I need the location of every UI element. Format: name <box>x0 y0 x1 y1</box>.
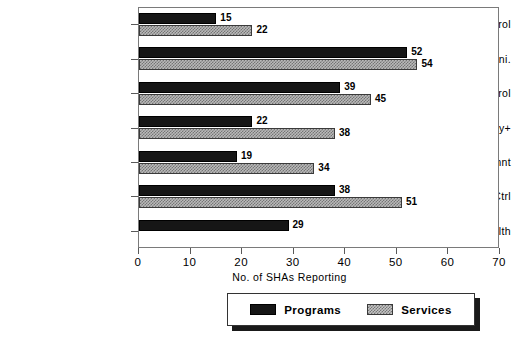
x-axis-tick-label: 50 <box>376 256 416 269</box>
bar-services <box>139 25 252 36</box>
bar-services <box>139 197 402 208</box>
bar-programs <box>139 185 335 196</box>
legend-item-services: Services <box>367 304 452 316</box>
bar-value-label: 22 <box>256 115 267 126</box>
y-axis-tick <box>131 231 138 232</box>
x-axis-tick <box>138 248 139 254</box>
bar-group <box>139 8 498 42</box>
bar-programs <box>139 220 289 231</box>
legend-item-programs: Programs <box>250 304 341 316</box>
solid-black-swatch-icon <box>250 304 276 315</box>
y-axis-tick <box>131 24 138 25</box>
x-axis-tick-label: 40 <box>324 256 364 269</box>
bar-programs <box>139 47 407 58</box>
bar-group <box>139 215 498 249</box>
bar-value-label: 52 <box>411 46 422 57</box>
x-axis-tick-label: 60 <box>427 256 467 269</box>
x-axis-tick <box>499 248 500 254</box>
x-axis-tick-label: 0 <box>118 256 158 269</box>
bar-group <box>139 77 498 111</box>
legend-label-programs: Programs <box>284 304 341 316</box>
bar-programs <box>139 151 237 162</box>
y-axis-tick <box>131 196 138 197</box>
bar-value-label: 39 <box>344 81 355 92</box>
legend-label-services: Services <box>401 304 452 316</box>
crosshatch-gray-swatch-icon <box>367 304 393 315</box>
bar-value-label: 38 <box>339 184 350 195</box>
bar-value-label: 29 <box>293 219 304 230</box>
chart-legend: Programs Services <box>227 293 475 326</box>
x-axis-tick <box>344 248 345 254</box>
x-axis-tick-label: 70 <box>479 256 519 269</box>
x-axis-tick-label: 10 <box>170 256 210 269</box>
bar-value-label: 34 <box>318 162 329 173</box>
bar-value-label: 22 <box>256 24 267 35</box>
bar-services <box>139 128 335 139</box>
bar-group <box>139 42 498 76</box>
bar-services <box>139 94 371 105</box>
x-axis-tick <box>396 248 397 254</box>
bar-value-label: 38 <box>339 127 350 138</box>
bar-services <box>139 163 314 174</box>
bar-value-label: 15 <box>220 12 231 23</box>
bar-group <box>139 111 498 145</box>
bar-chart: Air Quality ControlCons.Prot. & Sani.Rad… <box>0 0 519 339</box>
bar-group <box>139 180 498 214</box>
x-axis-title: No. of SHAs Reporting <box>0 271 519 283</box>
bar-value-label: 54 <box>421 58 432 69</box>
y-axis-tick <box>131 128 138 129</box>
x-axis-tick-label: 20 <box>221 256 261 269</box>
bar-value-label: 45 <box>375 93 386 104</box>
bar-value-label: 19 <box>241 150 252 161</box>
x-axis-tick-label: 30 <box>273 256 313 269</box>
plot-area <box>138 7 499 248</box>
x-axis-tick <box>447 248 448 254</box>
bar-services <box>139 59 417 70</box>
bar-programs <box>139 116 252 127</box>
y-axis-tick <box>131 59 138 60</box>
x-axis-tick <box>241 248 242 254</box>
bar-value-label: 51 <box>406 196 417 207</box>
x-axis-tick <box>190 248 191 254</box>
x-axis-tick <box>293 248 294 254</box>
y-axis-tick <box>131 93 138 94</box>
bar-programs <box>139 13 216 24</box>
y-axis-tick <box>131 162 138 163</box>
bar-programs <box>139 82 340 93</box>
